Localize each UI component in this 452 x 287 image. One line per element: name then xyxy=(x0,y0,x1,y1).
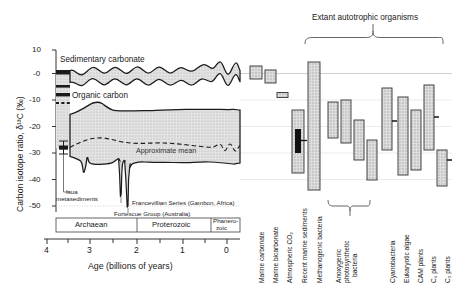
reference-bar-recent-marine-sediments xyxy=(292,110,307,173)
y-tick-m20: -20 xyxy=(29,123,41,131)
extant-organisms-bracket xyxy=(305,24,443,44)
x-tick-4: 4 xyxy=(44,246,49,255)
reference-bar-cyanobacteria xyxy=(382,88,397,150)
annotation-isua-2: metasediments xyxy=(56,196,98,202)
x-tick-3: 3 xyxy=(87,246,92,255)
era-label-phanerozoic-2: zoic xyxy=(216,225,227,231)
reference-bar-c4-plants xyxy=(424,85,439,150)
y-tick-m40: -40 xyxy=(29,176,41,184)
category-label-c3-plants: C₃ plants xyxy=(445,256,452,283)
category-label-eukaryotic-algae: Eukaryotic algae xyxy=(404,234,411,283)
reference-bar-c3-plants xyxy=(437,150,452,186)
sedimentary-carbonate-band xyxy=(70,62,240,86)
category-label-recent-marine-sediments: Recent marine sediments xyxy=(302,208,309,283)
category-label-anoxygenic-line2: photosynthetic xyxy=(344,240,351,283)
reference-bar-cam-plants xyxy=(411,110,421,170)
x-tick-0: 0 xyxy=(224,246,229,255)
annotation-sedimentary-carbonate: Sedimentary carbonate xyxy=(60,56,145,64)
reference-bar-marine-bicarbonate xyxy=(265,70,276,83)
category-label-marine-carbonate: Marine carbonate xyxy=(259,232,266,283)
y-tick-m30: -30 xyxy=(29,149,41,157)
x-axis-title: Age (billions of years) xyxy=(88,262,173,271)
y-tick-10: 10 xyxy=(32,46,41,54)
category-label-anoxygenic-line1: Anoxygenic xyxy=(336,249,343,283)
y-tick-m50: -50 xyxy=(29,202,41,210)
era-label-archaean: Archaean xyxy=(75,221,108,229)
category-label-cam-plants: CAM plants xyxy=(418,249,425,283)
anoxygenic-group-bracket xyxy=(328,200,370,216)
reference-bar-eukaryotic-algae xyxy=(398,97,408,175)
reference-bar-marine-carbonate xyxy=(250,66,262,79)
y-axis xyxy=(52,50,56,212)
reference-bar-anoxygenic-1 xyxy=(328,102,338,138)
extant-organisms-title: Extant autotrophic organisms xyxy=(312,14,418,22)
reference-bar-atmospheric-co2 xyxy=(277,93,288,98)
x-tick-1: 1 xyxy=(180,246,185,255)
y-axis-title: Carbon isotope ratio, δ¹³C (‰) xyxy=(16,96,25,212)
reference-bar-anoxygenic-3 xyxy=(354,120,364,160)
category-label-atmospheric-co2: Atmospheric CO₂ xyxy=(287,232,294,283)
x-tick-2: 2 xyxy=(134,246,139,255)
reference-bar-anoxygenic-4 xyxy=(367,140,377,180)
x-axis xyxy=(44,239,240,244)
annotation-organic-carbon: Organic carbon xyxy=(72,92,128,100)
reference-bar-methanogenic-bacteria xyxy=(308,62,320,190)
y-tick-0: -0 xyxy=(33,70,40,78)
annotation-francevillian: Francevillian Series (Gambon, Africa) xyxy=(132,200,234,206)
annotation-approximate-mean: Approximate mean xyxy=(136,147,196,154)
category-label-cyanobacteria: Cyanobacteria xyxy=(390,240,397,283)
category-label-marine-bicarbonate: Marine bicarbonate xyxy=(273,227,280,283)
y-tick-m10: -10 xyxy=(29,96,41,104)
category-label-methanogenic-bacteria: Methanogenic bacteria xyxy=(317,216,324,283)
era-label-proterozoic: Proterozoic xyxy=(152,221,190,229)
isua-metasediments-column xyxy=(56,70,70,192)
category-label-anoxygenic-line3: bacteria xyxy=(352,254,359,277)
annotation-fortescue: Fortescue Group (Australia) xyxy=(114,211,190,217)
figure-root: Carbon isotope ratio, δ¹³C (‰) 10 -0 -10… xyxy=(0,0,452,287)
figure-canvas xyxy=(0,0,452,287)
category-label-c4-plants: C₄ plants xyxy=(431,256,438,283)
reference-bar-anoxygenic-2 xyxy=(341,100,351,143)
